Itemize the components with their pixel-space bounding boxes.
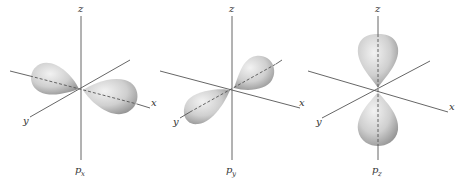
orbitals-svg: z x y p x z x y p y z: [0, 0, 461, 185]
panel-py: z x y p y: [160, 3, 305, 178]
panel-px: z x y p x: [10, 3, 157, 178]
x-axis-segment: [10, 71, 30, 76]
y-label: y: [22, 115, 29, 126]
p-orbitals-diagram: z x y p x z x y p y z: [0, 0, 461, 185]
z-label: z: [374, 3, 381, 14]
y-label: y: [172, 116, 179, 127]
z-label: z: [228, 3, 235, 14]
lobe-negative-x: [31, 63, 79, 95]
x-label: x: [151, 97, 157, 108]
y-label: y: [315, 116, 322, 127]
caption-pz-sub: z: [377, 170, 382, 178]
panel-pz: z x y p z: [308, 3, 455, 178]
lobe-positive-y: [184, 89, 230, 124]
x-label: x: [299, 97, 305, 108]
x-axis-segment: [137, 104, 150, 108]
lobe-negative-y: [234, 56, 274, 90]
caption-py-sub: y: [231, 170, 237, 178]
x-label: x: [449, 101, 455, 112]
z-label: z: [77, 3, 84, 14]
caption-px-sub: x: [81, 170, 85, 178]
y-axis-segment: [276, 60, 282, 64]
